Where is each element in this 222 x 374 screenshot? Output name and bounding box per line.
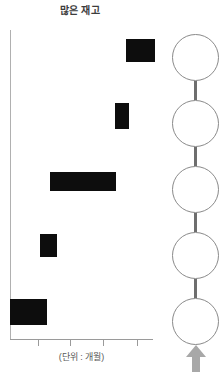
chart-title: 많은 재고 (0, 2, 160, 17)
arrow-up-icon (184, 344, 208, 372)
chain-connector-4 (194, 279, 197, 298)
bar-4 (40, 234, 57, 257)
chain-node-2[interactable] (172, 100, 219, 147)
chain-column (160, 0, 222, 374)
chain-node-4[interactable] (172, 232, 219, 279)
chain-connector-1 (194, 81, 197, 100)
bar-5 (10, 299, 47, 325)
bar-2 (115, 103, 129, 129)
x-axis-tick-2 (70, 340, 71, 346)
x-axis-label: (단위 : 개월) (10, 350, 153, 363)
chain-node-1[interactable] (172, 34, 219, 81)
bar-3 (50, 172, 116, 191)
x-axis-tick-1 (38, 340, 39, 346)
chain-node-3[interactable] (172, 166, 219, 213)
y-axis-line (10, 30, 11, 340)
chain-node-5[interactable] (172, 298, 219, 345)
chain-connector-2 (194, 147, 197, 166)
x-axis-tick-3 (103, 340, 104, 346)
x-axis-line (10, 339, 153, 340)
bar-chart-panel: 많은 재고 (단위 : 개월) (0, 0, 160, 374)
chain-connector-3 (194, 213, 197, 232)
bar-1 (126, 39, 155, 62)
x-axis-tick-4 (137, 340, 138, 346)
